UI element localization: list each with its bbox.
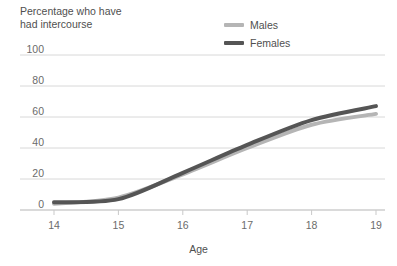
x-axis-tick-label: 19 [364,219,388,231]
plot-area: 020406080100141516171819 [0,0,397,266]
chart-container: Percentage who have had intercourse Male… [0,0,397,266]
y-axis-tick-label: 20 [16,167,44,179]
y-axis-tick-label: 40 [16,136,44,148]
x-axis-tick-label: 17 [235,219,259,231]
x-axis-tick-label: 18 [300,219,324,231]
y-axis-tick-label: 0 [16,198,44,210]
x-axis-tick-label: 16 [171,219,195,231]
y-axis-tick-label: 60 [16,105,44,117]
y-axis-tick-label: 80 [16,74,44,86]
x-axis-tick-label: 14 [42,219,66,231]
x-axis-tick-label: 15 [106,219,130,231]
y-axis-tick-label: 100 [16,43,44,55]
x-axis-title: Age [0,243,397,255]
